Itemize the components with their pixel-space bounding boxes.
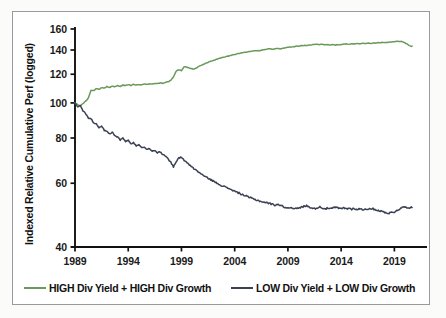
y-axis-title: Indexed Relative Cumulative Perf (logged… [23,29,35,259]
x-tick-label: 1994 [112,255,144,267]
y-tick-label: 120 [37,68,67,80]
y-tick-label: 80 [37,132,67,144]
legend-swatch-high [24,287,46,289]
x-tick-label: 2004 [219,255,251,267]
legend-swatch-low [231,287,253,289]
x-tick-label: 2014 [325,255,357,267]
x-tick-label: 2009 [272,255,304,267]
legend-label-high: HIGH Div Yield + HIGH Div Growth [49,282,211,294]
y-tick-label: 100 [37,97,67,109]
legend-label-low: LOW Div Yield + LOW Div Growth [256,282,415,294]
y-tick-label: 40 [37,241,67,253]
y-tick-label: 60 [37,177,67,189]
chart-legend: HIGH Div Yield + HIGH Div Growth LOW Div… [24,282,424,294]
x-tick-label: 2019 [378,255,410,267]
chart-figure: Indexed Relative Cumulative Perf (logged… [0,0,446,318]
legend-item-high: HIGH Div Yield + HIGH Div Growth [24,282,211,294]
x-tick-label: 1989 [59,255,91,267]
y-tick-label: 140 [37,44,67,56]
legend-item-low: LOW Div Yield + LOW Div Growth [231,282,415,294]
x-tick-label: 1999 [165,255,197,267]
y-tick-label: 160 [37,23,67,35]
